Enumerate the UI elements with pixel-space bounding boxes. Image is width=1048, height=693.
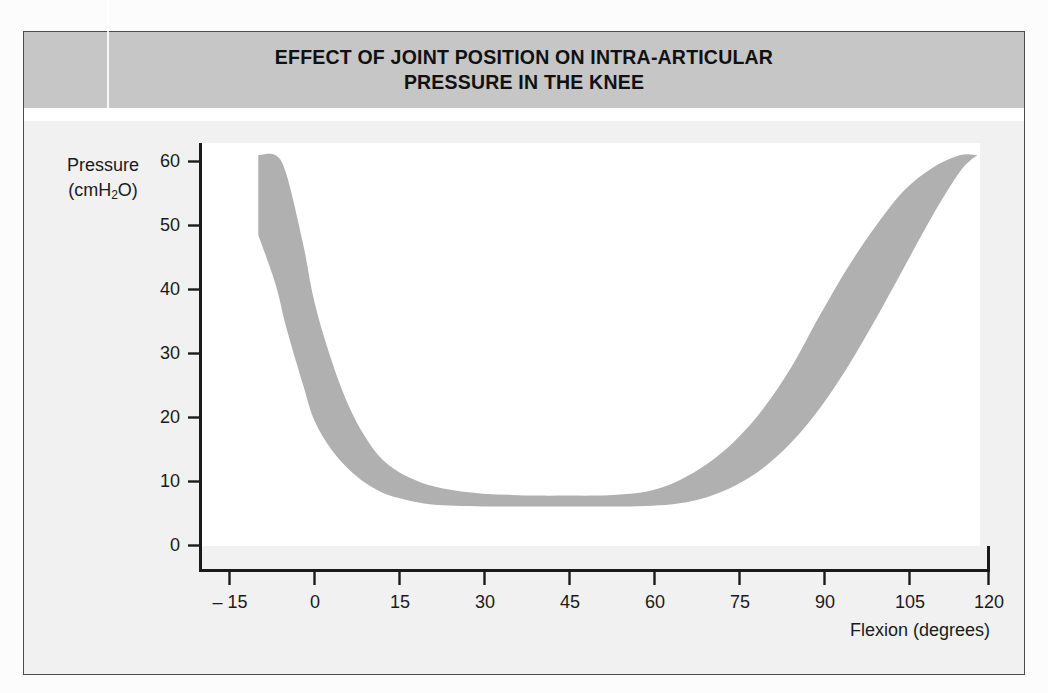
y-tick-label-30: 30 xyxy=(140,343,180,364)
x-tick-label-30: 30 xyxy=(454,592,516,613)
x-tick-label-90: 90 xyxy=(794,592,856,613)
y-tick-label-40: 40 xyxy=(140,279,180,300)
y-axis-ticks xyxy=(188,162,200,546)
x-tick-label-75: 75 xyxy=(709,592,771,613)
y-tick-label-10: 10 xyxy=(140,471,180,492)
y-tick-label-20: 20 xyxy=(140,407,180,428)
y-axis-units-suffix: O) xyxy=(118,180,138,200)
figure-page: EFFECT OF JOINT POSITION ON INTRA-ARTICU… xyxy=(0,0,1048,693)
x-tick-label-0: 0 xyxy=(284,592,346,613)
x-axis-title: Flexion (degrees) xyxy=(700,620,990,641)
x-axis-ticks xyxy=(230,571,989,585)
x-tick-label-45: 45 xyxy=(539,592,601,613)
y-axis-units-prefix: (cmH xyxy=(68,180,111,200)
y-tick-label-0: 0 xyxy=(140,535,180,556)
x-tick-label-105: 105 xyxy=(879,592,941,613)
y-axis-title-units: (cmH2O) xyxy=(68,180,138,200)
pressure-range-band xyxy=(258,154,977,507)
x-tick-label-60: 60 xyxy=(624,592,686,613)
x-tick-label-120: 120 xyxy=(958,592,1020,613)
x-tick-label-minus15: – 15 xyxy=(199,592,261,613)
y-axis-units-subscript: 2 xyxy=(111,188,118,202)
y-axis-title: Pressure (cmH2O) xyxy=(47,153,159,208)
y-axis-title-line-1: Pressure xyxy=(67,155,139,175)
x-tick-label-15: 15 xyxy=(369,592,431,613)
y-tick-label-50: 50 xyxy=(140,215,180,236)
